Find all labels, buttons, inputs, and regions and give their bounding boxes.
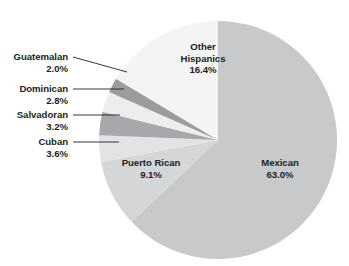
callout-category-dominican: Dominican bbox=[19, 83, 68, 95]
slice-label-puerto-rican: Puerto Rican 9.1% bbox=[96, 157, 206, 180]
callout-category-cuban: Cuban bbox=[38, 136, 68, 148]
callout-percent-cuban: 3.6% bbox=[38, 148, 68, 160]
leader-line-guatemalan bbox=[73, 57, 127, 72]
slice-label-mexican-line1: Mexican bbox=[232, 157, 328, 169]
slice-percent-puerto-rican: 9.1% bbox=[96, 169, 206, 181]
slice-label-other-hispanics: Other Hispanics 16.4% bbox=[155, 41, 251, 76]
slice-percent-other-hispanics: 16.4% bbox=[155, 64, 251, 76]
callout-category-guatemalan: Guatemalan bbox=[14, 51, 68, 63]
slice-label-other-hispanics-line1: Other bbox=[155, 41, 251, 53]
callout-label-guatemalan: Guatemalan 2.0% bbox=[14, 51, 68, 74]
callout-percent-dominican: 2.8% bbox=[19, 95, 68, 107]
callout-label-salvadoran: Salvadoran 3.2% bbox=[17, 109, 68, 132]
pie-chart-canvas bbox=[0, 0, 349, 266]
callout-percent-guatemalan: 2.0% bbox=[14, 63, 68, 75]
slice-percent-mexican: 63.0% bbox=[232, 169, 328, 181]
slice-label-other-hispanics-line2: Hispanics bbox=[155, 53, 251, 65]
slice-label-puerto-rican-line1: Puerto Rican bbox=[96, 157, 206, 169]
callout-label-dominican: Dominican 2.8% bbox=[19, 83, 68, 106]
slice-label-mexican: Mexican 63.0% bbox=[232, 157, 328, 180]
pie-chart-figure: Guatemalan 2.0% Dominican 2.8% Salvadora… bbox=[0, 0, 349, 266]
callout-label-cuban: Cuban 3.6% bbox=[38, 136, 68, 159]
callout-category-salvadoran: Salvadoran bbox=[17, 109, 68, 121]
callout-percent-salvadoran: 3.2% bbox=[17, 121, 68, 133]
